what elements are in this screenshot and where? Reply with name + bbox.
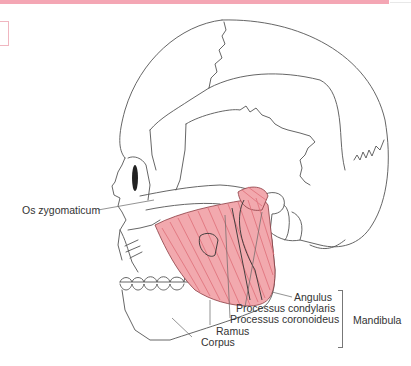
- skull-illustration: [0, 0, 411, 366]
- mandibula-bracket: [338, 290, 343, 348]
- label-processus-coronoideus: Processus coronoideus: [230, 313, 339, 325]
- label-mandibula: Mandibula: [353, 314, 401, 326]
- leader-corpus: [172, 318, 192, 337]
- label-os-zygomaticum: Os zygomaticum: [22, 204, 100, 216]
- masseter-muscle: [155, 187, 275, 306]
- label-corpus: Corpus: [201, 336, 235, 348]
- leader-os-zygomaticum: [98, 200, 154, 210]
- leader-angulus: [272, 292, 292, 297]
- orbit-mark: [132, 165, 138, 191]
